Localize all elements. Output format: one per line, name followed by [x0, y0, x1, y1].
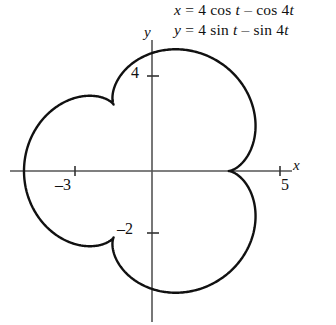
axes-group [10, 40, 292, 322]
plot-canvas [0, 0, 336, 325]
figure-container: x = 4 cos t – cos 4t y = 4 sin t – sin 4… [0, 0, 336, 325]
